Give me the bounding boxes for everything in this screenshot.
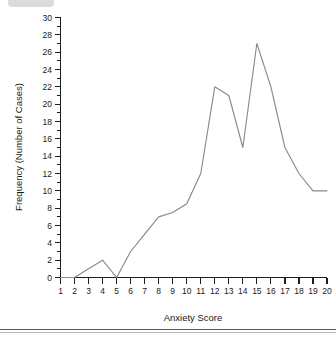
x-tick-label-12: 12	[210, 286, 220, 296]
x-tick-label-11: 11	[196, 286, 205, 296]
x-tick-label-9: 9	[170, 286, 175, 296]
x-tick-label-6: 6	[128, 286, 133, 296]
y-axis-title: Frequency (Number of Cases)	[13, 83, 24, 211]
x-tick-label-15: 15	[252, 286, 262, 296]
x-axis-tick-labels: 1234567891011121314151617181920	[58, 286, 332, 296]
y-tick-label-4: 4	[47, 238, 52, 248]
x-tick-label-1: 1	[58, 286, 63, 296]
y-tick-label-26: 26	[43, 47, 53, 57]
chart-page: 024681012141618202224262830 123456789101…	[0, 0, 336, 337]
x-tick-label-19: 19	[308, 286, 318, 296]
x-tick-label-4: 4	[100, 286, 105, 296]
y-tick-label-0: 0	[47, 273, 52, 283]
x-tick-label-18: 18	[294, 286, 304, 296]
y-tick-label-22: 22	[43, 82, 53, 92]
x-tick-label-17: 17	[280, 286, 290, 296]
y-tick-label-8: 8	[47, 203, 52, 213]
y-tick-label-2: 2	[47, 255, 52, 265]
page-separator-rule	[0, 329, 336, 330]
x-tick-label-7: 7	[142, 286, 147, 296]
y-tick-label-28: 28	[43, 30, 53, 40]
y-tick-label-30: 30	[43, 13, 53, 23]
y-axis-tick-labels: 024681012141618202224262830	[43, 13, 53, 283]
y-tick-label-10: 10	[43, 186, 53, 196]
y-tick-label-6: 6	[47, 221, 52, 231]
x-tick-label-2: 2	[72, 286, 77, 296]
y-tick-label-16: 16	[43, 134, 53, 144]
y-tick-label-18: 18	[43, 117, 53, 127]
x-tick-label-13: 13	[224, 286, 234, 296]
x-tick-label-5: 5	[114, 286, 119, 296]
x-tick-label-8: 8	[156, 286, 161, 296]
y-tick-label-14: 14	[43, 151, 53, 161]
x-axis-ticks	[61, 278, 328, 284]
page-separator-rule-secondary	[0, 332, 336, 333]
x-tick-label-20: 20	[322, 286, 332, 296]
x-tick-label-14: 14	[238, 286, 248, 296]
y-tick-label-24: 24	[43, 65, 53, 75]
line-chart-figure: 024681012141618202224262830 123456789101…	[0, 0, 336, 337]
x-tick-label-16: 16	[266, 286, 276, 296]
chart-canvas: 024681012141618202224262830 123456789101…	[0, 0, 336, 337]
y-tick-label-20: 20	[43, 99, 53, 109]
frequency-line-series	[61, 44, 328, 278]
x-tick-label-3: 3	[86, 286, 91, 296]
x-tick-label-10: 10	[182, 286, 192, 296]
y-tick-label-12: 12	[43, 169, 53, 179]
x-axis-title: Anxiety Score	[164, 312, 223, 323]
